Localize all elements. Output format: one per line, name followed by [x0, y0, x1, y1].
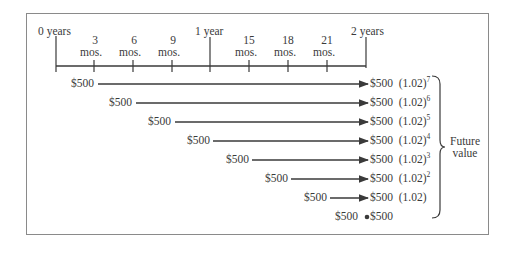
deposit-6: $500	[304, 191, 327, 203]
tick-label-2y: 2 years	[351, 25, 384, 37]
tick-label-21: 21	[319, 34, 335, 46]
tick-sub-18: mos.	[274, 46, 296, 58]
tick-label-9: 9	[166, 34, 180, 46]
future-value-2: $500 (1.02)5	[370, 115, 430, 127]
deposit-3: $500	[187, 134, 210, 146]
future-value-7: $500	[370, 210, 393, 222]
future-value-3: $500 (1.02)4	[370, 134, 430, 146]
tick-label-15: 15	[241, 34, 257, 46]
deposit-2: $500	[148, 115, 171, 127]
future-value-6: $500 (1.02)	[370, 191, 427, 203]
tick-sub-3: mos.	[80, 46, 102, 58]
future-value-5: $500 (1.02)2	[370, 172, 430, 184]
future-value-1: $500 (1.02)6	[370, 96, 430, 108]
deposit-0: $500	[71, 77, 94, 89]
future-value-0: $500 (1.02)7	[370, 77, 430, 89]
tick-label-0: 0 years	[38, 25, 71, 37]
tick-sub-9: mos.	[158, 46, 180, 58]
tick-label-18: 18	[280, 34, 296, 46]
tick-label-1y: 1 year	[195, 25, 223, 37]
deposit-5: $500	[265, 172, 288, 184]
tick-label-3: 3	[88, 34, 102, 46]
future-value-4: $500 (1.02)3	[370, 153, 430, 165]
tick-label-6: 6	[127, 34, 141, 46]
tick-sub-15: mos.	[235, 46, 257, 58]
deposit-4: $500	[226, 153, 249, 165]
deposit-7: $500	[335, 210, 358, 222]
deposit-1: $500	[109, 96, 132, 108]
tick-sub-21: mos.	[313, 46, 335, 58]
diagram-lines	[0, 0, 515, 254]
future-value-label: Future value	[447, 135, 483, 159]
tick-sub-6: mos.	[119, 46, 141, 58]
